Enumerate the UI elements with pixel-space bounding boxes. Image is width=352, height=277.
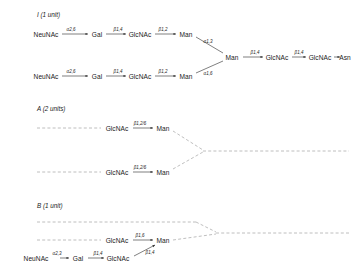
node-glcnac: GlcNAc bbox=[106, 169, 129, 176]
link-label-beta12: β1,2 bbox=[159, 69, 168, 74]
node-neunac: NeuNAc bbox=[34, 31, 59, 38]
node-glcnac: GlcNAc bbox=[107, 255, 130, 262]
link-label-beta126: β1,2/6 bbox=[134, 165, 147, 170]
section-B-connectors bbox=[37, 222, 349, 258]
node-man: Man bbox=[157, 125, 170, 132]
link-label-alpha13: α1,3 bbox=[204, 39, 213, 44]
section-A-connectors bbox=[37, 128, 349, 172]
link-label-beta14: β1,4 bbox=[251, 50, 260, 55]
diagram-connectors bbox=[0, 0, 352, 277]
node-man: Man bbox=[180, 31, 193, 38]
node-glcnac: GlcNAc bbox=[106, 125, 129, 132]
node-neunac: NeuNAc bbox=[24, 255, 49, 262]
node-gal: Gal bbox=[92, 31, 102, 38]
link-label-alpha26: α2,6 bbox=[67, 69, 76, 74]
node-glcnac: GlcNAc bbox=[129, 31, 152, 38]
link-label-beta12: β1,2 bbox=[159, 27, 168, 32]
link-label-beta126: β1,2/6 bbox=[134, 121, 147, 126]
node-neunac: NeuNAc bbox=[34, 73, 59, 80]
node-glcnac: GlcNAc bbox=[106, 237, 129, 244]
link-label-alpha16: α1,6 bbox=[204, 71, 213, 76]
link-label-alpha23: α2,3 bbox=[53, 251, 62, 256]
link-label-beta16: β1,6 bbox=[136, 233, 145, 238]
link-label-beta14: β1,4 bbox=[114, 69, 123, 74]
node-glcnac: GlcNAc bbox=[129, 73, 152, 80]
node-glcnac-core: GlcNAc bbox=[309, 54, 332, 61]
section-title-I: I (1 unit) bbox=[37, 11, 60, 18]
link-label-beta14: β1,4 bbox=[94, 251, 103, 256]
node-gal: Gal bbox=[92, 73, 102, 80]
node-asn: Asn bbox=[339, 54, 351, 61]
glycan-diagram-canvas: I (1 unit) A (2 units) B (1 unit) NeuNAc… bbox=[0, 0, 352, 277]
node-gal: Gal bbox=[73, 255, 83, 262]
link-label-beta14: β1,4 bbox=[295, 50, 304, 55]
link-label-alpha26: α2,6 bbox=[67, 27, 76, 32]
node-man: Man bbox=[180, 73, 193, 80]
node-man-core: Man bbox=[226, 54, 239, 61]
node-glcnac-core: GlcNAc bbox=[266, 54, 289, 61]
section-title-A: A (2 units) bbox=[37, 105, 65, 112]
node-man: Man bbox=[157, 169, 170, 176]
section-title-B: B (1 unit) bbox=[37, 202, 63, 209]
link-label-beta14: β1,4 bbox=[146, 250, 155, 255]
node-man: Man bbox=[157, 237, 170, 244]
link-label-beta14: β1,4 bbox=[114, 27, 123, 32]
